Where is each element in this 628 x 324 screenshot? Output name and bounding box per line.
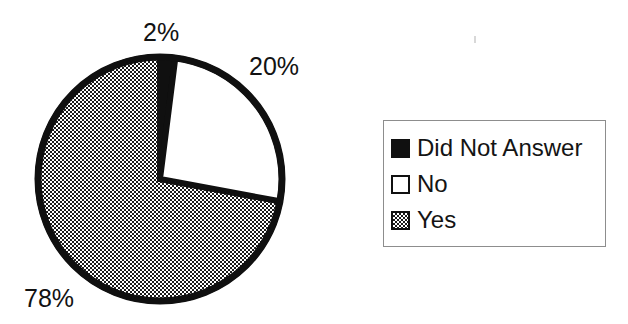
black-swatch-icon [391, 139, 410, 158]
scan-artifact [474, 36, 476, 43]
pie-label-yes: 78% [24, 286, 74, 311]
legend-item-yes: Yes [391, 202, 605, 238]
pie-label-did-not-answer: 2% [143, 20, 179, 45]
pie-chart-figure: 2% 20% 78% Did Not Answer No Yes [0, 0, 628, 324]
gray-swatch-icon [391, 211, 410, 230]
legend: Did Not Answer No Yes [383, 120, 606, 247]
pie-graphic [30, 51, 290, 307]
legend-label-yes: Yes [417, 208, 456, 232]
legend-label-no: No [417, 172, 448, 196]
legend-item-did-not-answer: Did Not Answer [391, 130, 605, 166]
legend-label-did-not-answer: Did Not Answer [417, 136, 582, 160]
pie-chart: 2% 20% 78% [0, 0, 340, 324]
legend-item-no: No [391, 166, 605, 202]
white-swatch-icon [391, 175, 410, 194]
pie-label-no: 20% [249, 54, 299, 79]
